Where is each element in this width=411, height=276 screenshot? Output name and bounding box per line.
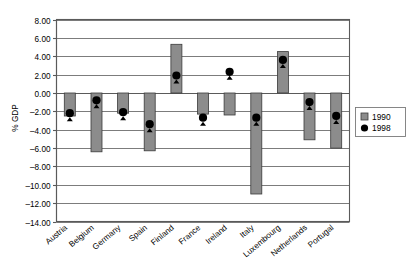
data-point-marker: [92, 96, 100, 104]
x-axis-category-label: Spain: [127, 223, 149, 244]
data-point-marker: [172, 71, 180, 79]
chart-canvas: % GDP 8.006.004.002.000.00–2.00–4.00–6.0…: [0, 0, 411, 276]
y-axis-tick-label: 0.00: [35, 90, 51, 99]
x-axis-category-labels: AustriaBelgiumGermanySpainFinlandFranceI…: [44, 223, 336, 260]
y-axis-tick-label: –10.00: [25, 182, 50, 191]
bar: [171, 44, 182, 93]
y-axis-tick-label: 4.00: [35, 53, 51, 62]
data-point-marker: [199, 114, 207, 122]
bar: [198, 93, 209, 114]
legend-circle-icon: [361, 124, 368, 131]
legend-label-1990: 1990: [372, 112, 391, 122]
x-axis-category-label: Portugal: [306, 223, 335, 250]
y-axis-tick-label: –14.00: [25, 219, 50, 228]
x-axis-category-label: France: [177, 223, 203, 247]
legend-square-icon: [361, 113, 368, 120]
y-axis-tick-label: 6.00: [35, 35, 51, 44]
y-axis-tick-label: –8.00: [30, 163, 51, 172]
y-axis-title: % GDP: [11, 104, 20, 132]
x-axis-category-label: Germany: [91, 223, 123, 252]
y-axis-tick-label: –6.00: [30, 145, 51, 154]
data-point-marker: [226, 68, 234, 76]
x-axis-category-label: Finland: [149, 223, 176, 247]
data-point-marker: [252, 114, 260, 122]
data-point-marker: [146, 120, 154, 128]
bar: [224, 93, 235, 115]
bar: [251, 93, 262, 194]
data-point-marker-tail: [120, 116, 126, 120]
data-point-marker-tail: [200, 122, 206, 126]
data-point-marker: [279, 56, 287, 64]
y-axis-tick-label: –2.00: [30, 108, 51, 117]
y-axis-tick-labels: 8.006.004.002.000.00–2.00–4.00–6.00–8.00…: [25, 17, 50, 228]
legend-label-1998: 1998: [372, 123, 391, 133]
data-point-marker: [332, 112, 340, 120]
legend: 1990 1998: [356, 108, 406, 137]
gdp-deficit-chart: % GDP 8.006.004.002.000.00–2.00–4.00–6.0…: [0, 0, 411, 276]
data-point-marker: [66, 109, 74, 117]
y-axis-tick-label: –4.00: [30, 127, 51, 136]
data-point-marker-tail: [227, 76, 233, 80]
y-axis-tick-label: –12.00: [25, 200, 50, 209]
x-axis-category-label: Italy: [238, 223, 256, 240]
data-point-marker: [305, 98, 313, 106]
x-axis-category-label: Ireland: [204, 223, 229, 246]
data-point-marker-tail: [67, 117, 73, 121]
data-point-marker: [119, 108, 127, 116]
y-axis-tick-label: 2.00: [35, 72, 51, 81]
y-axis-tick-label: 8.00: [35, 17, 51, 26]
